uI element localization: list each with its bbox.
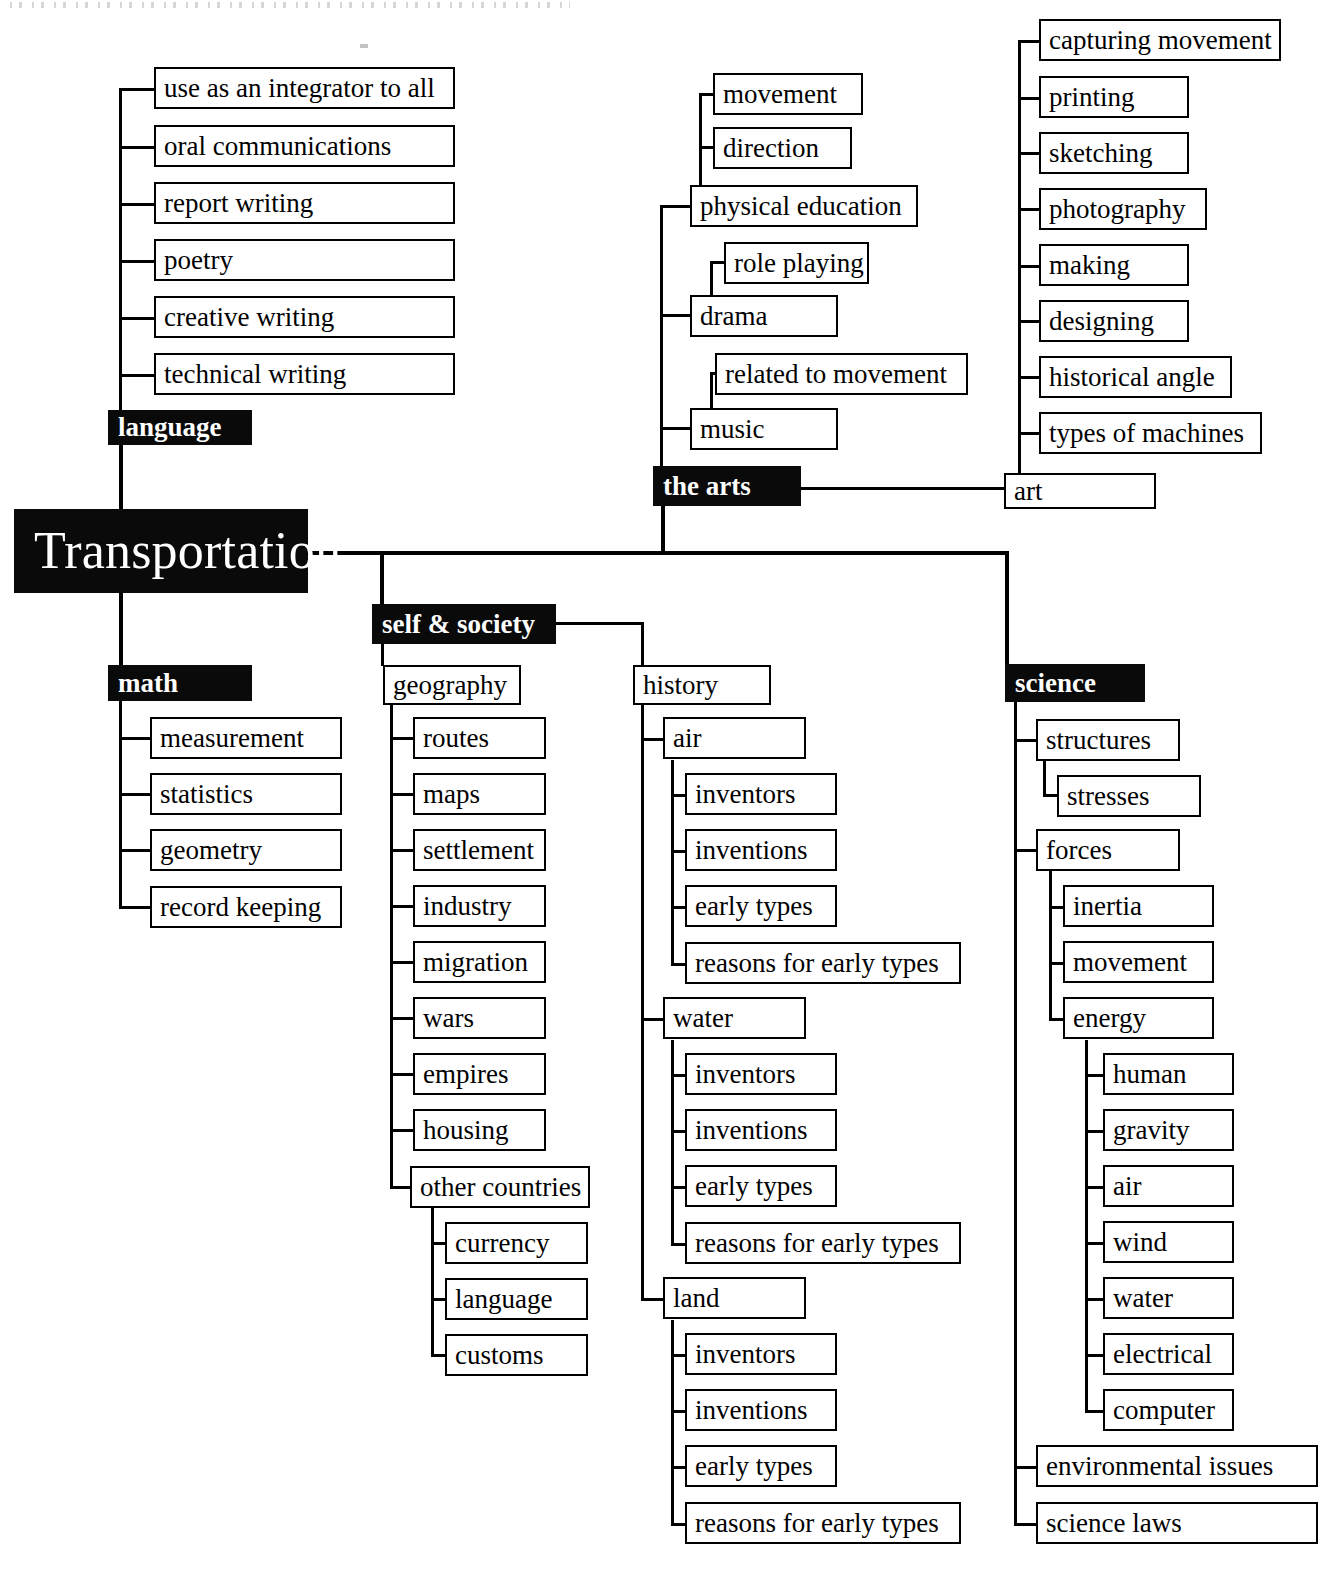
node-science-laws[interactable]: science laws (1036, 1502, 1318, 1544)
node-water-early-types[interactable]: early types (685, 1165, 837, 1207)
node-measurement[interactable]: measurement (150, 717, 342, 759)
connector-bus-to-science (1005, 551, 1009, 664)
node-energy-human[interactable]: human (1103, 1053, 1234, 1095)
node-use-as-an-integrator-to-all[interactable]: use as an integrator to all (154, 67, 455, 109)
connector-selfsociety-to-geography (381, 644, 384, 666)
node-energy-air[interactable]: air (1103, 1165, 1234, 1207)
node-drama[interactable]: drama (690, 295, 838, 337)
node-language[interactable]: language (108, 410, 252, 445)
connector-geo-to-routes (390, 737, 415, 740)
node-sketching[interactable]: sketching (1039, 132, 1189, 174)
connector-selfsociety-to-history-v (641, 622, 644, 666)
node-the-arts[interactable]: the arts (653, 466, 801, 506)
node-air-inventors[interactable]: inventors (685, 773, 837, 815)
node-water-reasons-for-early-types[interactable]: reasons for early types (685, 1222, 961, 1264)
node-environmental-issues[interactable]: environmental issues (1036, 1445, 1318, 1487)
node-energy-electrical[interactable]: electrical (1103, 1333, 1234, 1375)
connector-energy-to-air (1085, 1186, 1105, 1189)
node-inertia[interactable]: inertia (1063, 885, 1214, 927)
node-history-land[interactable]: land (663, 1277, 806, 1319)
node-music[interactable]: music (690, 408, 838, 450)
node-air-inventions[interactable]: inventions (685, 829, 837, 871)
connector-geo-to-migration (390, 961, 415, 964)
connector-geo-to-wars (390, 1017, 415, 1020)
node-energy[interactable]: energy (1063, 997, 1214, 1039)
node-historical-angle[interactable]: historical angle (1039, 356, 1232, 398)
node-other-countries[interactable]: other countries (410, 1166, 590, 1208)
node-empires[interactable]: empires (413, 1053, 546, 1095)
node-water-inventors[interactable]: inventors (685, 1053, 837, 1095)
connector-root-right-bus (308, 551, 1008, 555)
node-capturing-movement[interactable]: capturing movement (1039, 19, 1281, 61)
node-forces-movement[interactable]: movement (1063, 941, 1214, 983)
node-geometry[interactable]: geometry (150, 829, 342, 871)
node-printing[interactable]: printing (1039, 76, 1189, 118)
node-energy-water[interactable]: water (1103, 1277, 1234, 1319)
node-housing[interactable]: housing (413, 1109, 546, 1151)
connector-history-spine (641, 700, 644, 1299)
node-stresses[interactable]: stresses (1057, 775, 1201, 817)
node-air-early-types[interactable]: early types (685, 885, 837, 927)
node-physical-education[interactable]: physical education (690, 185, 918, 227)
node-science[interactable]: science (1005, 664, 1145, 702)
node-forces[interactable]: forces (1036, 829, 1180, 871)
node-self-and-society[interactable]: self & society (372, 604, 556, 644)
concept-map-canvas: Transportation language use as an integr… (0, 0, 1331, 1593)
connector-geo-to-maps (390, 793, 415, 796)
node-geography[interactable]: geography (383, 665, 521, 705)
connector-arts-to-art (800, 487, 1006, 490)
node-transportation-root[interactable]: Transportation (14, 509, 308, 593)
scan-artifact (10, 2, 570, 8)
node-role-playing[interactable]: role playing (724, 242, 869, 284)
node-related-to-movement[interactable]: related to movement (715, 353, 968, 395)
connector-art-spine (1018, 40, 1021, 474)
connector-water-spine (671, 1040, 674, 1244)
node-statistics[interactable]: statistics (150, 773, 342, 815)
node-industry[interactable]: industry (413, 885, 546, 927)
node-history[interactable]: history (633, 665, 771, 705)
node-record-keeping[interactable]: record keeping (150, 886, 342, 928)
node-migration[interactable]: migration (413, 941, 546, 983)
node-designing[interactable]: designing (1039, 300, 1189, 342)
node-report-writing[interactable]: report writing (154, 182, 455, 224)
node-math[interactable]: math (108, 665, 252, 701)
node-water-inventions[interactable]: inventions (685, 1109, 837, 1151)
connector-forces-spine (1049, 870, 1052, 1018)
node-energy-computer[interactable]: computer (1103, 1389, 1234, 1431)
node-structures[interactable]: structures (1036, 719, 1180, 761)
node-land-inventions[interactable]: inventions (685, 1389, 837, 1431)
node-history-water[interactable]: water (663, 997, 806, 1039)
node-technical-writing[interactable]: technical writing (154, 353, 455, 395)
connector-other-countries-spine (431, 1207, 434, 1354)
node-oral-communications[interactable]: oral communications (154, 125, 455, 167)
node-land-inventors[interactable]: inventors (685, 1333, 837, 1375)
node-routes[interactable]: routes (413, 717, 546, 759)
node-land-early-types[interactable]: early types (685, 1445, 837, 1487)
node-maps[interactable]: maps (413, 773, 546, 815)
node-direction[interactable]: direction (713, 127, 852, 169)
connector-language-to-poetry (119, 260, 156, 263)
node-land-reasons-for-early-types[interactable]: reasons for early types (685, 1502, 961, 1544)
node-types-of-machines[interactable]: types of machines (1039, 412, 1262, 454)
node-movement[interactable]: movement (713, 73, 863, 115)
connector-bus-to-selfsociety (380, 551, 384, 606)
node-energy-wind[interactable]: wind (1103, 1221, 1234, 1263)
connector-bus-to-arts (661, 500, 665, 555)
connector-language-to-technical (119, 374, 156, 377)
connector-arts-to-pe (660, 205, 692, 208)
connector-language-to-integrator (119, 88, 156, 91)
node-photography[interactable]: photography (1039, 188, 1207, 230)
node-other-countries-language[interactable]: language (445, 1278, 588, 1320)
node-energy-gravity[interactable]: gravity (1103, 1109, 1234, 1151)
node-art[interactable]: art (1004, 473, 1156, 509)
node-history-air[interactable]: air (663, 717, 806, 759)
node-customs[interactable]: customs (445, 1334, 588, 1376)
node-settlement[interactable]: settlement (413, 829, 546, 871)
node-making[interactable]: making (1039, 244, 1189, 286)
node-currency[interactable]: currency (445, 1222, 588, 1264)
node-poetry[interactable]: poetry (154, 239, 455, 281)
connector-math-to-record (119, 906, 152, 909)
node-wars[interactable]: wars (413, 997, 546, 1039)
node-air-reasons-for-early-types[interactable]: reasons for early types (685, 942, 961, 984)
node-creative-writing[interactable]: creative writing (154, 296, 455, 338)
